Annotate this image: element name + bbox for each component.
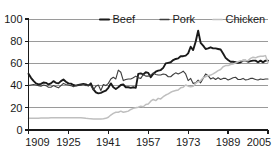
line-chart: 0204060801001909192519411957197319892005…	[0, 0, 273, 148]
y-tick-label-40: 40	[10, 79, 22, 91]
y-tick-label-0: 0	[16, 124, 22, 136]
y-tick-label-60: 60	[10, 57, 22, 69]
y-tick-label-20: 20	[10, 102, 22, 114]
legend-label-chicken: Chicken	[226, 13, 266, 25]
x-tick-label-1925: 1925	[56, 136, 80, 148]
legend-label-pork: Pork	[173, 13, 196, 25]
x-tick-label-1957: 1957	[136, 136, 160, 148]
x-axis-ticks: 1909192519411957197319892005	[25, 130, 271, 148]
gridlines	[29, 19, 269, 108]
x-tick-label-1909: 1909	[25, 136, 49, 148]
x-tick-label-1941: 1941	[96, 136, 120, 148]
x-tick-label-1973: 1973	[176, 136, 200, 148]
chart-canvas: 0204060801001909192519411957197319892005…	[0, 0, 273, 148]
y-tick-label-80: 80	[10, 35, 22, 47]
series-line-chicken	[29, 56, 269, 119]
legend: BeefPorkChicken	[100, 13, 265, 25]
y-axis-ticks: 020406080100	[4, 13, 28, 136]
x-tick-label-1989: 1989	[216, 136, 240, 148]
series-group	[29, 31, 269, 119]
y-tick-label-100: 100	[4, 13, 22, 25]
legend-label-beef: Beef	[113, 13, 137, 25]
x-tick-label-2005: 2005	[247, 136, 271, 148]
